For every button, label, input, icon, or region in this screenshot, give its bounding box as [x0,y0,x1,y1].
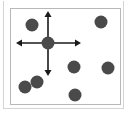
arrow-up-icon [45,11,52,17]
dot[interactable] [95,16,108,29]
dot[interactable] [26,19,39,32]
dots-layer [19,16,115,102]
selected-dot[interactable] [42,37,55,50]
dot[interactable] [69,89,82,102]
arrow-left-icon [16,40,22,47]
dot[interactable] [68,61,81,74]
dot[interactable] [102,62,115,75]
diagram-canvas[interactable] [0,0,128,113]
arrow-right-icon [75,40,81,47]
dot[interactable] [19,81,32,94]
dot[interactable] [31,76,44,89]
arrow-down-icon [45,70,52,76]
